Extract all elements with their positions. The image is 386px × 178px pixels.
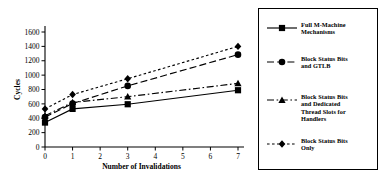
svg-text:800: 800 xyxy=(28,85,40,94)
svg-text:0: 0 xyxy=(36,143,40,152)
legend-entry-2[interactable]: Block Status Bits and Dedicated Thread S… xyxy=(265,93,375,123)
svg-text:200: 200 xyxy=(28,128,40,137)
svg-text:Cycles: Cycles xyxy=(13,79,22,100)
svg-text:1200: 1200 xyxy=(25,56,40,65)
svg-text:1000: 1000 xyxy=(25,71,40,80)
chart-legend: Full M-Machine MechanismsBlock Status Bi… xyxy=(258,8,378,170)
svg-text:7: 7 xyxy=(236,152,240,161)
axes xyxy=(45,26,244,147)
svg-text:Number of Invalidations: Number of Invalidations xyxy=(102,162,181,171)
legend-marker-triangle-icon xyxy=(265,93,299,107)
legend-marker-circle-icon xyxy=(265,55,299,69)
svg-text:5: 5 xyxy=(181,152,185,161)
legend-entry-0[interactable]: Full M-Machine Mechanisms xyxy=(265,21,375,36)
svg-text:400: 400 xyxy=(28,114,40,123)
svg-text:6: 6 xyxy=(209,152,213,161)
tick-marks xyxy=(42,32,239,151)
legend-label-0: Full M-Machine Mechanisms xyxy=(299,21,346,36)
svg-text:1: 1 xyxy=(71,152,75,161)
svg-text:4: 4 xyxy=(153,152,157,161)
legend-label-2: Block Status Bits and Dedicated Thread S… xyxy=(299,93,348,123)
legend-entry-1[interactable]: Block Status Bits and GTLB xyxy=(265,55,375,70)
svg-text:0: 0 xyxy=(43,152,47,161)
legend-entry-3[interactable]: Block Status Bits Only xyxy=(265,137,375,152)
series-2 xyxy=(41,80,241,119)
data-series xyxy=(41,43,241,126)
svg-text:2: 2 xyxy=(98,152,102,161)
legend-marker-diamond-icon xyxy=(265,137,299,151)
chart-figure: 0200400600800100012001400160001234567 Nu… xyxy=(0,0,386,178)
svg-text:600: 600 xyxy=(28,100,40,109)
legend-marker-square-icon xyxy=(265,21,299,35)
svg-text:3: 3 xyxy=(126,152,130,161)
svg-text:1600: 1600 xyxy=(25,28,40,37)
legend-label-3: Block Status Bits Only xyxy=(299,137,348,152)
svg-text:1400: 1400 xyxy=(25,42,40,51)
legend-label-1: Block Status Bits and GTLB xyxy=(299,55,348,70)
